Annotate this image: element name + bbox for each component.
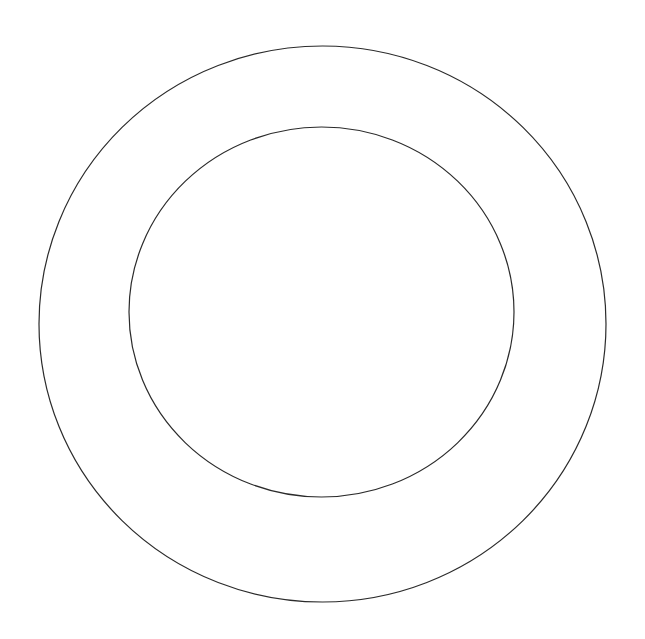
drawing-canvas: Two concentric ellipse outlines forming … [0, 0, 645, 639]
concentric-rings-illustration: Two concentric ellipse outlines forming … [0, 0, 645, 639]
canvas-background [0, 0, 645, 639]
